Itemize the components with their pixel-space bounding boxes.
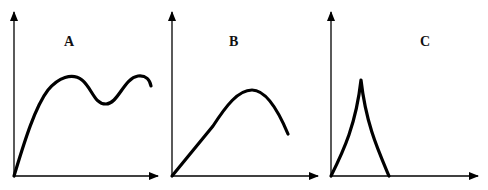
curve-a xyxy=(14,76,151,176)
panel-label-a: A xyxy=(64,34,74,50)
curve-b xyxy=(172,90,288,176)
panel-label-c: C xyxy=(420,34,430,50)
curve-c xyxy=(331,80,389,176)
diagram-canvas xyxy=(0,0,488,190)
panel-b xyxy=(172,12,318,176)
panel-c xyxy=(331,12,478,176)
panel-label-b: B xyxy=(229,34,238,50)
panel-a xyxy=(14,12,158,176)
